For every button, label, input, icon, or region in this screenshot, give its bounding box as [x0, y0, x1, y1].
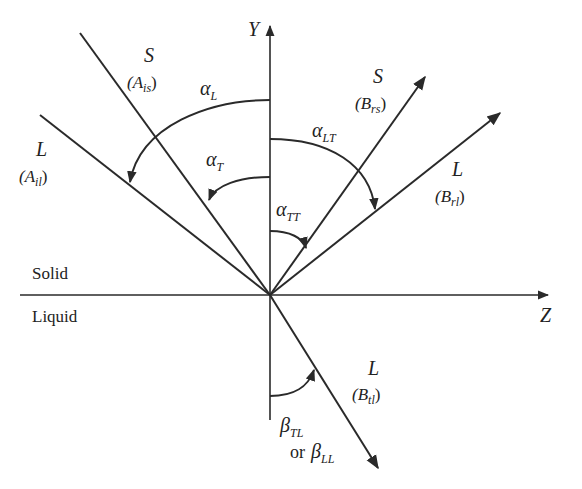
alpha-t-arc [209, 177, 270, 200]
solid-label: Solid [32, 264, 68, 283]
reflected-long-label: L (Brl) [435, 158, 465, 209]
alpha-l-arc [130, 100, 270, 182]
alpha-tt-arc [270, 231, 306, 248]
svg-text:L: L [35, 138, 47, 160]
y-axis-label: Y [248, 18, 261, 40]
svg-text:(Brl): (Brl) [435, 187, 465, 209]
alpha-t-label: αT [206, 148, 225, 174]
incident-shear-wave [80, 33, 270, 295]
beta-arc [270, 370, 314, 396]
reflected-shear-wave [270, 77, 425, 295]
svg-text:(Ail): (Ail) [19, 167, 47, 189]
svg-text:(Brs): (Brs) [355, 94, 386, 116]
svg-text:S: S [373, 65, 383, 87]
reflected-long-wave [270, 113, 500, 295]
reflected-shear-label: S (Brs) [355, 65, 386, 116]
svg-text:S: S [144, 44, 154, 66]
transmitted-long-label: L (Btl) [352, 357, 380, 407]
svg-text:(Ais): (Ais) [127, 73, 157, 95]
z-axis-label: Z [540, 304, 552, 326]
alpha-tt-label: αTT [276, 198, 301, 224]
transmitted-long-wave [270, 295, 378, 468]
wave-reflection-diagram: Y Z Solid Liquid S (Ais) L (Ail) S (Brs)… [0, 0, 582, 489]
svg-text:(Btl): (Btl) [352, 385, 380, 407]
incident-long-label: L (Ail) [19, 138, 47, 189]
beta-ll-label: orβLL [290, 440, 335, 466]
incident-shear-label: S (Ais) [127, 44, 157, 95]
beta-tl-label: βTL [279, 414, 304, 440]
svg-text:L: L [451, 158, 463, 180]
liquid-label: Liquid [32, 307, 78, 326]
alpha-l-label: αL [200, 77, 218, 103]
alpha-lt-label: αLT [312, 119, 337, 145]
incident-long-wave [40, 115, 270, 295]
svg-text:L: L [367, 357, 379, 379]
